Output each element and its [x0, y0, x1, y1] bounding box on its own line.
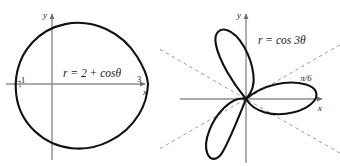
polar-curves-figure: r = 2 + cosθ –1 3 x y r = cos 3θ π/6 x y: [0, 0, 340, 166]
right-y-axis-label: y: [236, 10, 241, 20]
right-x-axis-label: x: [317, 103, 322, 113]
left-equation-label: r = 2 + cosθ: [63, 67, 122, 79]
right-angle-annotation: π/6: [301, 73, 313, 83]
left-x-tick-label-three: 3: [137, 74, 141, 84]
left-y-axis-label: y: [42, 10, 47, 20]
right-equation-label: r = cos 3θ: [258, 34, 306, 46]
left-x-axis-label: x: [142, 87, 147, 97]
left-x-tick-label-negative-one: –1: [16, 75, 26, 85]
